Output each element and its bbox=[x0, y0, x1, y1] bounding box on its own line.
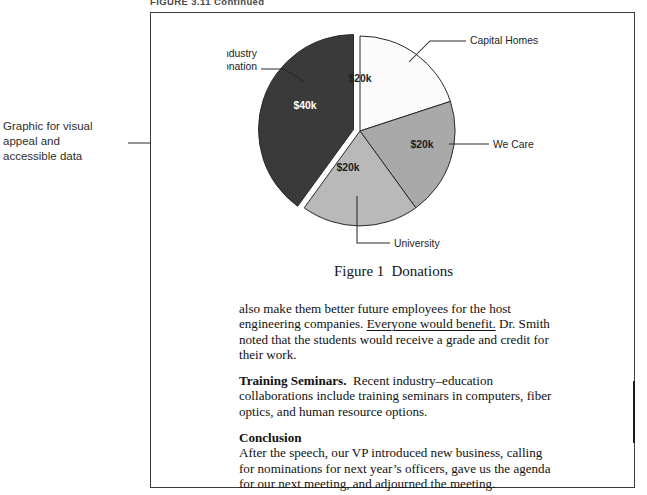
pie-label-industry-donation-line1: IndustryDonation bbox=[227, 48, 258, 72]
conclusion-text: After the speech, our VP introduced new … bbox=[239, 445, 550, 491]
figure-caption-title: Donations bbox=[391, 263, 453, 279]
pie-value-industry-donation: $40k bbox=[293, 100, 316, 111]
pie-label-university: University bbox=[394, 238, 440, 249]
figure-caption-number: Figure 1 bbox=[334, 263, 384, 279]
figure-caption: Figure 1Donations bbox=[151, 263, 636, 280]
body-copy: also make them better future employees f… bbox=[239, 301, 559, 495]
paragraph-training-seminars: Training Seminars. Recent industry–educa… bbox=[239, 373, 559, 419]
running-head: FIGURE 3.11 Continued bbox=[150, 0, 530, 5]
pie-label-capital-homes: Capital Homes bbox=[470, 35, 538, 46]
annotation-line-2: appeal and bbox=[3, 134, 121, 149]
pie-chart: Capital Homes $20k We Care $20k Universi… bbox=[227, 19, 557, 267]
document-page: Capital Homes $20k We Care $20k Universi… bbox=[150, 12, 635, 488]
annotation-line-1: Graphic for visual bbox=[3, 119, 121, 134]
paragraph-conclusion: ConclusionAfter the speech, our VP intro… bbox=[239, 430, 559, 491]
pie-value-we-care: $20k bbox=[410, 139, 433, 150]
pie-value-capital-homes: $20k bbox=[348, 73, 371, 84]
paragraph-1-underlined: Everyone would benefit. bbox=[367, 316, 496, 331]
figure-block: Capital Homes $20k We Care $20k Universi… bbox=[151, 13, 636, 288]
pie-label-we-care: We Care bbox=[493, 139, 534, 150]
margin-annotation: Graphic for visual appeal and accessible… bbox=[3, 119, 121, 164]
pie-value-university: $20k bbox=[336, 162, 359, 173]
training-seminars-runin-head: Training Seminars. bbox=[239, 373, 346, 388]
paragraph-continuation: also make them better future employees f… bbox=[239, 301, 559, 362]
page-edge-accent bbox=[633, 381, 636, 443]
annotation-line-3: accessible data bbox=[3, 149, 121, 164]
conclusion-head: Conclusion bbox=[239, 430, 559, 445]
